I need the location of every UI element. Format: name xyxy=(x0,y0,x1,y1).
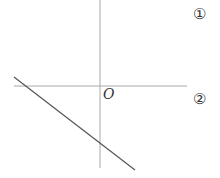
marker-1: ① xyxy=(193,5,206,23)
graph-line xyxy=(14,77,135,170)
origin-label: O xyxy=(103,86,114,102)
marker-2: ② xyxy=(193,90,206,108)
